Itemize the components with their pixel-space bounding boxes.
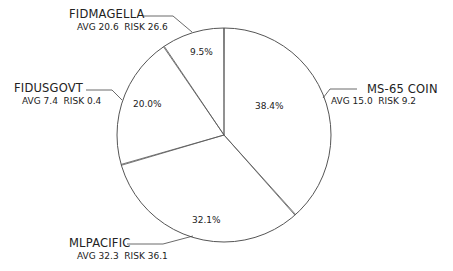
pct-label-ms65: 38.4% (255, 101, 284, 111)
label-fidusgovt-name: FIDUSGOVT (14, 81, 84, 95)
leader-mlpacific (127, 236, 193, 244)
pct-label-fidusgovt: 20.0% (133, 99, 162, 109)
label-fidusgovt-sub: AVG 7.4 RISK 0.4 (22, 96, 102, 106)
label-fidmagella-name: FIDMAGELLA (69, 7, 145, 21)
pie-slices (117, 28, 331, 242)
label-ms65-name: MS-65 COIN (367, 82, 438, 96)
label-mlpacific-name: MLPACIFIC (69, 236, 130, 250)
pct-label-fidmagella: 9.5% (190, 47, 213, 57)
pct-label-mlpacific: 32.1% (192, 215, 221, 225)
label-fidmagella-sub: AVG 20.6 RISK 26.6 (77, 22, 168, 32)
label-ms65-sub: AVG 15.0 RISK 9.2 (331, 96, 416, 106)
label-mlpacific-sub: AVG 32.3 RISK 36.1 (77, 251, 168, 261)
pie-chart: 38.4% 32.1% 20.0% 9.5% FIDMAGELLA AVG 20… (0, 0, 453, 271)
